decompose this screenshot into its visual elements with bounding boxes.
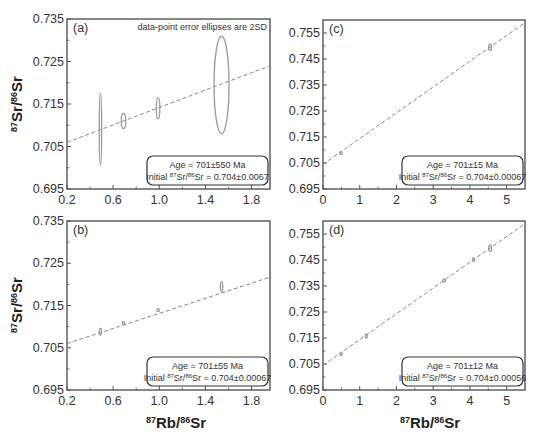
y-axis-label-a: 87Sr/86Sr: [8, 76, 25, 132]
panel-b: 0.6950.7050.7150.7250.7350.20.61.01.41.8…: [33, 214, 272, 408]
x-tick-label: 0: [320, 193, 327, 207]
panel-label: (d): [329, 223, 344, 237]
y-tick-label: 0.735: [33, 12, 64, 26]
y-tick-label: 0.745: [289, 253, 320, 267]
panel-label: (a): [73, 21, 88, 35]
y-tick-label: 0.725: [289, 104, 320, 118]
y-tick-label: 0.735: [289, 279, 320, 293]
x-tick-label: 1: [356, 193, 363, 207]
x-tick-label: 5: [503, 394, 510, 408]
x-tick-label: 5: [503, 193, 510, 207]
y-tick-label: 0.715: [33, 299, 64, 313]
x-tick-label: 3: [430, 193, 437, 207]
initial-ratio-text: Initial 87Sr/86Sr = 0.704±0.0067: [146, 172, 269, 182]
initial-ratio-text: Initial 87Sr/86Sr = 0.704±0.00056: [399, 373, 527, 383]
initial-ratio-text: Initial 87Sr/86Sr = 0.704±0.00067: [144, 373, 272, 383]
y-tick-label: 0.755: [289, 227, 320, 241]
y-tick-label: 0.715: [289, 130, 320, 144]
y-tick-label: 0.695: [289, 383, 320, 397]
x-tick-label: 1: [356, 394, 363, 408]
y-tick-label: 0.695: [289, 182, 320, 196]
x-tick-label: 1.8: [243, 193, 260, 207]
y-tick-label: 0.715: [33, 97, 64, 111]
error-note: data-point error ellipses are 2SD: [137, 22, 267, 32]
y-tick-label: 0.735: [289, 78, 320, 92]
y-axis-label-b: 87Sr/86Sr: [8, 277, 25, 333]
panel-d: 0.6950.7050.7150.7250.7350.7450.75501234…: [289, 221, 527, 408]
y-tick-label: 0.705: [289, 156, 320, 170]
y-tick-label: 0.755: [289, 26, 320, 40]
age-text: Age = 701±550 Ma: [169, 160, 245, 170]
panel-a: 0.6950.7050.7150.7250.7350.20.61.01.41.8…: [33, 12, 270, 207]
x-axis-label-b: 87Rb/86Sr: [146, 414, 206, 431]
y-tick-label: 0.725: [33, 256, 64, 270]
x-axis-label-d: 87Rb/86Sr: [400, 414, 460, 431]
x-tick-label: 1.0: [151, 394, 168, 408]
x-tick-label: 0.2: [58, 394, 75, 408]
x-tick-label: 2: [393, 394, 400, 408]
panel-c: 0.6950.7050.7150.7250.7350.7450.75501234…: [289, 20, 527, 207]
x-tick-label: 4: [466, 193, 473, 207]
isochron-figure: 87Sr/86Sr 87Sr/86Sr 87Rb/86Sr 87Rb/86Sr …: [0, 0, 538, 442]
initial-ratio-text: Initial 87Sr/86Sr = 0.704±0.00067: [399, 172, 527, 182]
x-tick-label: 0: [320, 394, 327, 408]
x-tick-label: 0.6: [104, 394, 121, 408]
y-tick-label: 0.705: [289, 357, 320, 371]
x-tick-label: 1.4: [197, 193, 214, 207]
x-tick-label: 2: [393, 193, 400, 207]
x-tick-label: 3: [430, 394, 437, 408]
age-text: Age = 701±12 Ma: [427, 361, 498, 371]
y-tick-label: 0.725: [33, 55, 64, 69]
y-tick-label: 0.705: [33, 341, 64, 355]
y-tick-label: 0.735: [33, 214, 64, 228]
y-tick-label: 0.705: [33, 140, 64, 154]
age-text: Age = 701±15 Ma: [427, 160, 498, 170]
x-tick-label: 1.0: [151, 193, 168, 207]
panel-label: (c): [329, 22, 344, 36]
panel-label: (b): [73, 223, 88, 237]
y-tick-label: 0.745: [289, 52, 320, 66]
x-tick-label: 4: [466, 394, 473, 408]
x-tick-label: 0.6: [104, 193, 121, 207]
x-tick-label: 1.8: [243, 394, 260, 408]
x-tick-label: 1.4: [197, 394, 214, 408]
x-tick-label: 0.2: [58, 193, 75, 207]
y-tick-label: 0.725: [289, 305, 320, 319]
age-text: Age = 701±55 Ma: [172, 361, 243, 371]
y-tick-label: 0.715: [289, 331, 320, 345]
